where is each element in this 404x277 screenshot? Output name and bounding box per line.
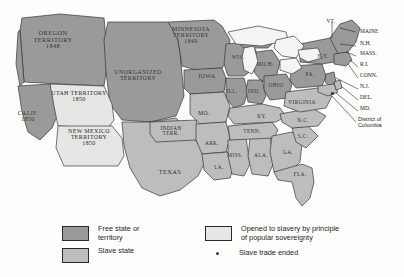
legend-swatch-popular-sovereignty	[205, 226, 232, 241]
slave-trade-ended-dot	[331, 92, 334, 95]
legend-label-slave-state: Slave state	[98, 247, 134, 256]
map-legend: Free state or territory Slave state Open…	[0, 215, 404, 277]
legend-swatch-slave-state	[62, 248, 89, 263]
legend-label-slave-trade-ended: Slave trade ended	[239, 249, 298, 258]
legend-slave-trade-ended: Slave trade ended	[205, 247, 298, 258]
legend-label-popular-sovereignty: Opened to slavery by principle of popula…	[241, 225, 339, 243]
map-figure: .f{fill:#9a9a9a;} .s{fill:#bdbdbd;} .p{f…	[0, 0, 404, 277]
legend-free-state: Free state or territory	[62, 225, 139, 243]
legend-label-free-state: Free state or territory	[98, 225, 139, 243]
legend-swatch-free-state	[62, 226, 89, 241]
legend-slave-state: Slave state	[62, 247, 134, 263]
legend-dot-icon	[216, 252, 219, 255]
us-map-svg: .f{fill:#9a9a9a;} .s{fill:#bdbdbd;} .p{f…	[0, 0, 404, 215]
legend-popular-sovereignty: Opened to slavery by principle of popula…	[205, 225, 339, 243]
us-map: .f{fill:#9a9a9a;} .s{fill:#bdbdbd;} .p{f…	[0, 0, 404, 215]
legend-swatch-slave-trade-ended	[205, 252, 230, 255]
